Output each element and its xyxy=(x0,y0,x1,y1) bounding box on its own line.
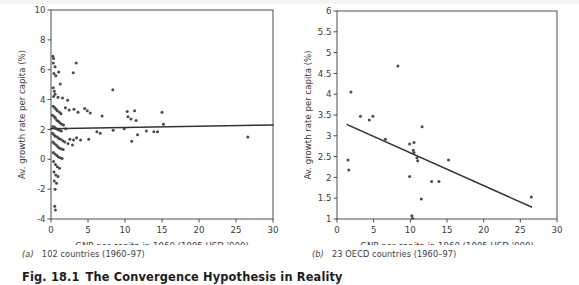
data-point xyxy=(133,109,136,112)
data-point xyxy=(89,112,92,115)
x-axis-tick-label: 0 xyxy=(48,225,53,235)
data-point xyxy=(111,88,114,91)
data-point xyxy=(72,71,75,74)
data-point xyxy=(347,158,350,161)
y-axis-tick-label: 4 xyxy=(40,95,45,105)
data-point xyxy=(52,160,55,163)
x-axis-label: GNP per capita in 1960 (1995 USD '000) xyxy=(360,241,534,245)
data-point xyxy=(135,119,138,122)
x-axis-tick-label: 5 xyxy=(85,225,90,235)
data-point xyxy=(416,159,419,162)
data-point xyxy=(57,70,60,73)
x-axis-tick-label: 10 xyxy=(405,225,416,235)
y-axis-tick-label: 2.5 xyxy=(318,152,332,162)
y-axis-label: Av. growth rate per capita (%) xyxy=(17,50,27,179)
data-point xyxy=(83,107,86,110)
data-point xyxy=(57,96,60,99)
data-point xyxy=(430,180,433,183)
data-point xyxy=(408,175,411,178)
figure-title: The Convergence Hypothesis in Reality xyxy=(86,270,343,284)
data-point xyxy=(64,106,67,109)
figure-caption: Fig. 18.1The Convergence Hypothesis in R… xyxy=(22,270,343,284)
data-point xyxy=(52,95,55,98)
y-axis-tick-label: 2 xyxy=(326,173,331,183)
data-point xyxy=(145,129,148,132)
x-axis-label: GNP per capita in 1960 (1995 USD '000) xyxy=(75,241,249,245)
data-point xyxy=(68,138,71,141)
y-axis-tick-label: 8 xyxy=(40,35,45,45)
data-point xyxy=(62,123,65,126)
y-axis-tick-label: 4.5 xyxy=(318,69,332,79)
data-point xyxy=(359,115,362,118)
data-point xyxy=(136,133,139,136)
data-point xyxy=(75,62,78,65)
data-point xyxy=(60,129,63,132)
data-point xyxy=(246,135,249,138)
chart-panel-b: 05101520253011.522.533.544.555.56GNP per… xyxy=(290,0,579,270)
data-point xyxy=(68,109,71,112)
data-point xyxy=(101,114,104,117)
x-axis-tick-label: 15 xyxy=(442,225,453,235)
data-point xyxy=(75,136,78,139)
data-point xyxy=(62,148,65,151)
y-axis-tick-label: -4 xyxy=(37,214,46,224)
plot-frame xyxy=(337,11,557,219)
x-axis-tick-label: 30 xyxy=(268,225,279,235)
data-point xyxy=(152,130,155,133)
y-axis-label: Av. growth rate per capita (%) xyxy=(303,50,313,179)
data-point xyxy=(408,143,411,146)
figure-number: Fig. 18.1 xyxy=(22,270,80,284)
data-point xyxy=(112,129,115,132)
data-point xyxy=(77,111,80,114)
data-point xyxy=(530,195,533,198)
x-axis-tick-label: 15 xyxy=(157,225,168,235)
plot-frame xyxy=(51,10,273,219)
y-axis-tick-label: -2 xyxy=(37,184,46,194)
y-axis-tick-label: 10 xyxy=(35,5,46,15)
data-point xyxy=(59,112,62,115)
y-axis-tick-label: 3.5 xyxy=(318,110,332,120)
data-point xyxy=(53,179,56,182)
chart-panel-a: 051015202530-4-20246810GNP per capita in… xyxy=(0,0,290,270)
y-axis-tick-label: 6 xyxy=(40,65,45,75)
panel-b-label: (b) xyxy=(312,249,324,259)
data-point xyxy=(63,141,66,144)
data-point xyxy=(67,142,70,145)
data-point xyxy=(126,110,129,113)
panel-a-label: (a) xyxy=(22,249,34,259)
x-axis-tick-label: 25 xyxy=(515,225,526,235)
data-point xyxy=(368,118,371,121)
y-axis-tick-label: 2 xyxy=(40,125,45,135)
y-axis-tick-label: 3 xyxy=(326,131,331,141)
data-point xyxy=(126,115,129,118)
data-point xyxy=(161,111,164,114)
data-point xyxy=(87,138,90,141)
data-point xyxy=(52,170,55,173)
data-point xyxy=(420,198,423,201)
data-point xyxy=(59,82,62,85)
x-axis-tick-label: 20 xyxy=(478,225,489,235)
x-axis-tick-label: 25 xyxy=(231,225,242,235)
data-point xyxy=(421,125,424,128)
panel-a-subcaption: (a) 102 countries (1960–97) xyxy=(22,249,145,259)
data-point xyxy=(156,130,159,133)
scatter-plot-a: 051015202530-4-20246810GNP per capita in… xyxy=(0,0,290,245)
data-point xyxy=(79,138,82,141)
y-axis-tick-label: 5 xyxy=(326,48,331,58)
data-point xyxy=(71,144,74,147)
y-axis-tick-label: 5.5 xyxy=(318,27,332,37)
data-point xyxy=(55,182,58,185)
data-point xyxy=(347,168,350,171)
data-point xyxy=(52,86,55,89)
panel-a-caption-text: 102 countries (1960–97) xyxy=(42,249,145,259)
data-point xyxy=(99,132,102,135)
data-point xyxy=(411,217,414,220)
data-point xyxy=(54,65,57,68)
y-axis-tick-label: 1.5 xyxy=(318,193,332,203)
data-point xyxy=(86,109,89,112)
y-axis-tick-label: 0 xyxy=(40,154,45,164)
data-point xyxy=(54,188,57,191)
data-point xyxy=(413,141,416,144)
data-point xyxy=(72,108,75,111)
x-axis-tick-label: 10 xyxy=(120,225,131,235)
